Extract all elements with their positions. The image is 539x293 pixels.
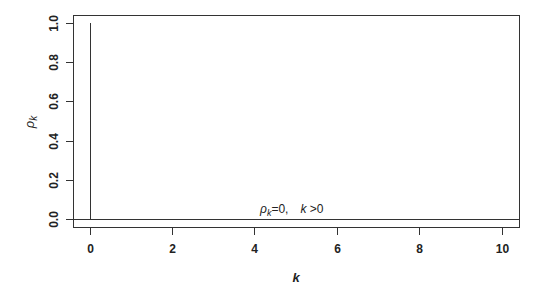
y-tick-label: 0.2 [47,172,61,189]
y-axis [66,24,74,220]
x-tick-labels: 0 2 4 6 8 10 [87,242,509,256]
annotation: ρk=0,k >0 [259,202,324,218]
x-tick-label: 4 [251,242,258,256]
annotation-gt: >0 [306,202,323,216]
x-tick-label: 2 [169,242,176,256]
y-tick-label: 1.0 [47,15,61,32]
annotation-eq: =0, [271,202,288,216]
y-tick-labels: 0.0 0.2 0.4 0.6 0.8 1.0 [47,15,61,228]
plot-frame [74,16,520,228]
y-axis-label: ρk [22,115,39,129]
acf-chart: 0.0 0.2 0.4 0.6 0.8 1.0 0 2 4 6 8 10 k ρ… [0,0,539,293]
y-tick-label: 0.8 [47,54,61,71]
y-axis-label-sub: k [28,115,39,121]
x-tick-label: 8 [416,242,423,256]
y-tick-label: 0.0 [47,211,61,228]
annotation-rho: ρ [259,202,267,216]
y-tick-label: 0.6 [47,93,61,110]
x-axis-label: k [292,270,300,285]
x-axis [91,228,503,236]
svg-text:ρk: ρk [22,115,39,129]
x-tick-label: 10 [496,242,510,256]
y-tick-label: 0.4 [47,133,61,150]
x-tick-label: 6 [334,242,341,256]
x-tick-label: 0 [87,242,94,256]
